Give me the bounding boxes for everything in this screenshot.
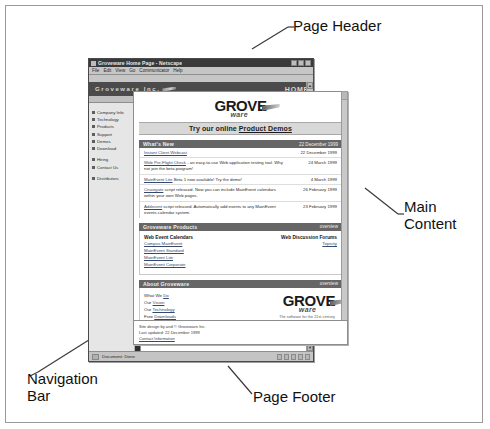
promo-banner[interactable]: Try our online Product Demos xyxy=(139,122,342,135)
product-demos-link[interactable]: Product Demos xyxy=(239,125,292,132)
bullet-icon xyxy=(92,158,95,161)
groveware-logo: GROVE ware xyxy=(214,99,266,118)
page-footer-card: Site design by and © Groveware Inc. Last… xyxy=(133,320,348,345)
address-book-icon[interactable] xyxy=(291,354,296,360)
sidebar-item-label: Hiring xyxy=(97,157,108,162)
security-icon[interactable] xyxy=(92,354,99,360)
navigator-icon[interactable] xyxy=(305,354,310,360)
news-date: 22 December 1999 xyxy=(291,150,337,155)
whats-new-title: What's New xyxy=(143,141,174,147)
menu-communicator[interactable]: Communicator xyxy=(139,68,169,73)
logo-word-ware: ware xyxy=(299,306,317,313)
title-bar[interactable]: Groveware Home Page - Netscape xyxy=(89,59,313,67)
about-link-do[interactable]: Do xyxy=(163,293,169,298)
sidebar-item-technology[interactable]: Technology xyxy=(92,116,134,122)
about-link-vision[interactable]: Vision xyxy=(153,300,165,305)
logo-row: GROVE ware xyxy=(139,96,342,122)
about-link-downloads[interactable]: Downloads xyxy=(154,314,176,319)
products-column-forums: Web Discussion Forums Topicity xyxy=(244,235,338,269)
products-title: Groveware Products xyxy=(143,224,197,230)
footer-contact-row[interactable]: Contact Information xyxy=(139,336,342,342)
news-rest: script released. Automatically add event… xyxy=(144,204,276,215)
sidebar-item-download[interactable]: Download xyxy=(92,146,134,152)
minimize-button[interactable] xyxy=(291,60,297,66)
status-icon-tray[interactable] xyxy=(277,354,310,360)
main-card-scrollbar[interactable] xyxy=(341,91,348,337)
news-date: 4 March 1999 xyxy=(291,177,337,182)
news-link[interactable]: MainEvent Lite xyxy=(144,177,172,182)
about-link-list: What We Do Our Vision Our Technology Fre… xyxy=(144,293,176,321)
scroll-up-arrow[interactable]: ▲ xyxy=(307,82,313,89)
status-bar: Document: Done xyxy=(89,351,313,361)
list-item[interactable]: Our Vision xyxy=(144,300,176,307)
contact-information-link[interactable]: Contact Information xyxy=(139,336,175,341)
table-row[interactable]: Instant Client Webcast 22 December 1999 xyxy=(140,148,341,157)
sidebar-item-products[interactable]: Products xyxy=(92,124,134,130)
about-link-technology[interactable]: Technology xyxy=(152,307,174,312)
whats-new-header: What's New 22 December 1999 xyxy=(139,140,342,148)
menu-bar[interactable]: File Edit View Go Communicator Help xyxy=(89,67,313,75)
scroll-up-arrow[interactable] xyxy=(342,92,347,100)
navigation-bar[interactable]: Company Info Technology Products Support xyxy=(89,103,135,351)
about-logo-block: GROVE ware The software for the 21st cen… xyxy=(279,294,335,319)
news-text: Web Pre-Flight Check - an easy-to-use We… xyxy=(144,160,287,172)
product-link-mainevent-standard[interactable]: MainEvent Standard xyxy=(144,248,238,255)
nav-group-tertiary: Distributors xyxy=(92,175,134,181)
products-overview-link[interactable]: overview xyxy=(320,224,338,229)
product-link-mainevent-corporate[interactable]: MainEvent Corporate xyxy=(144,262,238,269)
sidebar-item-hiring[interactable]: Hiring xyxy=(92,157,134,163)
sidebar-item-distributors[interactable]: Distributors xyxy=(92,175,134,181)
sidebar-item-contact-us[interactable]: Contact Us xyxy=(92,164,134,170)
table-row[interactable]: Addevent script released. Automatically … xyxy=(140,201,341,218)
bullet-icon xyxy=(92,166,95,169)
menu-go[interactable]: Go xyxy=(129,68,135,73)
news-link[interactable]: Instant Client Webcast xyxy=(144,150,187,155)
bullet-icon xyxy=(92,147,95,150)
status-text: Document: Done xyxy=(102,354,135,359)
composer-icon[interactable] xyxy=(298,354,303,360)
title-bar-left: Groveware Home Page - Netscape xyxy=(91,60,182,66)
product-link-mainevent-lite[interactable]: MainEvent Lite xyxy=(144,255,238,262)
scroll-down-arrow[interactable]: ▼ xyxy=(307,344,313,351)
sidebar-item-label: Demos xyxy=(97,139,111,144)
close-button[interactable] xyxy=(305,60,311,66)
news-text: Instant Client Webcast xyxy=(144,150,287,156)
sidebar-item-label: Technology xyxy=(97,117,119,122)
menu-file[interactable]: File xyxy=(92,68,99,73)
about-title: About Groveware xyxy=(143,281,189,287)
groveware-logo-secondary: GROVE ware xyxy=(283,294,335,313)
table-row[interactable]: MainEvent Lite Beta 1 now available! Try… xyxy=(140,174,341,184)
window-controls[interactable] xyxy=(291,60,311,66)
mail-icon[interactable] xyxy=(277,354,282,360)
about-overview-link[interactable]: overview xyxy=(320,281,338,286)
menu-edit[interactable]: Edit xyxy=(103,68,111,73)
bullet-icon xyxy=(92,118,95,121)
menu-help[interactable]: Help xyxy=(173,68,182,73)
newsgroup-icon[interactable] xyxy=(284,354,289,360)
news-link[interactable]: Addevent xyxy=(144,204,162,209)
bullet-icon xyxy=(92,133,95,136)
list-item[interactable]: What We Do xyxy=(144,293,176,300)
product-link-topicity[interactable]: Topicity xyxy=(244,241,338,248)
sidebar-item-label: Products xyxy=(97,124,114,129)
whats-new-table: Instant Client Webcast 22 December 1999 … xyxy=(139,148,342,218)
sidebar-item-support[interactable]: Support xyxy=(92,131,134,137)
product-link-campus-mainevent[interactable]: Campus MainEvent xyxy=(144,241,238,248)
products-column-heading: Web Event Calendars xyxy=(144,235,238,240)
sidebar-item-company-info[interactable]: Company Info xyxy=(92,109,134,115)
logo-tagline: The software for the 21st century xyxy=(279,315,335,319)
news-link[interactable]: Cnavigate xyxy=(144,187,163,192)
table-row[interactable]: Cnavigate script released. Now you can i… xyxy=(140,184,341,201)
list-item[interactable]: Our Technology xyxy=(144,307,176,314)
annotation-page-footer: Page Footer xyxy=(253,389,336,406)
whats-new-header-date: 22 December 1999 xyxy=(299,142,338,147)
table-row[interactable]: Web Pre-Flight Check - an easy-to-use We… xyxy=(140,157,341,174)
sidebar-item-demos[interactable]: Demos xyxy=(92,139,134,145)
news-link[interactable]: Web Pre-Flight Check xyxy=(144,160,186,165)
maximize-button[interactable] xyxy=(298,60,304,66)
sidebar-item-label: Distributors xyxy=(97,176,119,181)
annotation-navigation-bar: Navigation Bar xyxy=(27,371,98,405)
nav-group-secondary: Hiring Contact Us xyxy=(92,157,134,170)
menu-view[interactable]: View xyxy=(115,68,125,73)
news-rest: script released. Now you can include Mai… xyxy=(144,187,276,198)
